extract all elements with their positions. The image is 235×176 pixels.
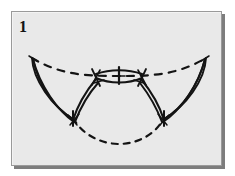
lower-dashed-arc	[73, 118, 164, 144]
figure-page: 1	[0, 0, 235, 176]
left-lobe-inner-edge	[33, 59, 73, 119]
right-lobe-upper-arm-outer	[141, 79, 164, 120]
left-lobe-upper-arm-inner	[75, 83, 98, 122]
figure-plate: 1	[11, 11, 222, 166]
right-lobe-upper-arm-inner	[140, 83, 162, 122]
left-lobe-secondary-blade	[33, 59, 74, 122]
figure-drawing	[12, 12, 223, 167]
left-lobe-outer-edge	[32, 58, 73, 119]
